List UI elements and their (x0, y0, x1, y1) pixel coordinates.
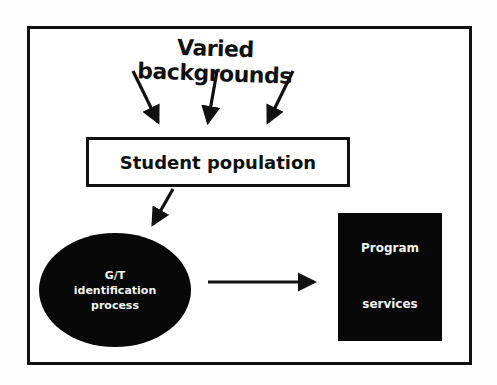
student-population-label: Student population (120, 152, 316, 173)
program-line-1: Program (361, 241, 419, 255)
identification-line-3: process (91, 298, 139, 313)
program-line-2: services (362, 297, 418, 311)
identification-line-1: G/T (105, 268, 126, 283)
diagram-title: Varied backgrounds (99, 32, 331, 90)
program-services-box: Program services (338, 213, 442, 341)
identification-process-ellipse: G/T identification process (39, 233, 191, 347)
identification-line-2: identification (74, 283, 156, 298)
student-population-box: Student population (86, 137, 350, 187)
arrow-student-to-identification (153, 189, 173, 224)
